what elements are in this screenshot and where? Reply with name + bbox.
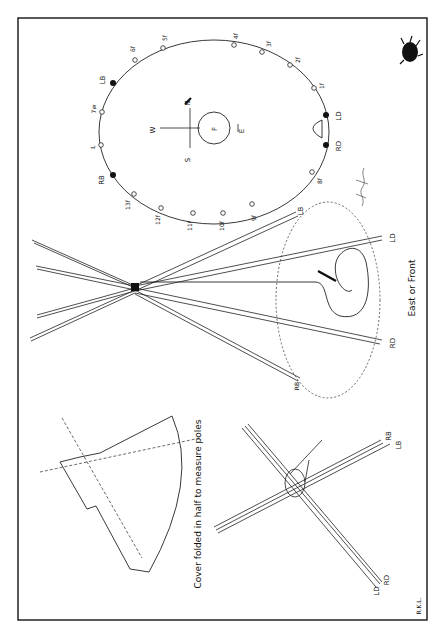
doorway bbox=[313, 120, 322, 138]
pole-marker-4f bbox=[232, 43, 237, 48]
pole-marker-rd bbox=[323, 142, 329, 148]
tripod-label-ld: LD bbox=[389, 233, 397, 242]
buffalo-icon bbox=[400, 36, 423, 64]
pole-marker-12f bbox=[159, 206, 164, 211]
tie-label-lb: LB bbox=[395, 440, 403, 449]
pole-marker-10f bbox=[221, 211, 226, 216]
fire-label: F bbox=[211, 127, 219, 131]
plan-label-rb: RB bbox=[98, 175, 106, 185]
pole-marker-9f bbox=[250, 202, 255, 207]
pole-marker-7w bbox=[100, 110, 105, 115]
plan-label-9f: 9f bbox=[250, 214, 257, 221]
plan-label-3f: 3f bbox=[265, 40, 272, 47]
stake-icon bbox=[318, 271, 336, 281]
pole-marker-1f bbox=[312, 86, 317, 91]
tripod-label-rd: RD bbox=[389, 338, 397, 348]
tie-label-rd: RD bbox=[383, 575, 391, 585]
pole-marker-3f bbox=[260, 50, 265, 55]
plan-label-12f: 12f bbox=[154, 214, 161, 225]
pole-marker-6f bbox=[133, 58, 138, 63]
compass-east: E bbox=[238, 129, 246, 133]
signature bbox=[356, 168, 368, 206]
pole-marker-11f bbox=[191, 211, 196, 216]
plan-label-lb: LB bbox=[99, 75, 107, 84]
plan-label-11f: 11f bbox=[186, 220, 193, 231]
tipi-diagram: F N S W E LD RD LB RB bbox=[0, 0, 444, 627]
compass-west: W bbox=[149, 126, 157, 133]
tripod-label-rb: RB bbox=[293, 382, 300, 390]
plan-label-l: L bbox=[89, 145, 96, 149]
plan-label-6f: 6f bbox=[129, 45, 136, 52]
tripod-label-lb: LB bbox=[297, 206, 305, 215]
pole-marker-rb bbox=[110, 172, 116, 178]
pole-marker-lb bbox=[110, 80, 116, 86]
plan-label-1f: 1f bbox=[318, 82, 325, 89]
credit-initials: R.K.L. bbox=[415, 597, 422, 614]
plan-label-7w: 7w bbox=[90, 105, 97, 114]
pole-marker-ld bbox=[323, 112, 329, 118]
plan-label-13f: 13f bbox=[124, 199, 131, 210]
tie-rope bbox=[290, 440, 322, 482]
ground-ellipse bbox=[276, 202, 380, 398]
plan-label-rd: RD bbox=[335, 141, 343, 151]
cover-diagram: Cover folded in half to measure poles bbox=[40, 416, 203, 588]
plan-label-ld: LD bbox=[335, 111, 343, 120]
plan-label-8f: 8f bbox=[316, 177, 323, 184]
pole-marker-5f bbox=[161, 46, 166, 51]
cover-center-line bbox=[62, 418, 142, 558]
plan-label-5f: 5f bbox=[161, 34, 168, 41]
pole-marker-2f bbox=[288, 63, 293, 68]
plan-label-2f: 2f bbox=[294, 56, 301, 63]
plan-label-4f: 4f bbox=[232, 32, 239, 39]
compass-south: S bbox=[184, 157, 192, 162]
cover-outline bbox=[60, 416, 182, 572]
tie-label-rb: RB bbox=[385, 431, 393, 441]
plan-label-10f: 10f bbox=[218, 220, 225, 231]
tie-diagram: RB LB RD LD bbox=[214, 424, 403, 596]
pole-marker-8f bbox=[310, 170, 315, 175]
cover-caption: Cover folded in half to measure poles bbox=[193, 419, 203, 588]
pole-marker-l bbox=[99, 143, 104, 148]
east-front-caption: East or Front bbox=[407, 259, 417, 317]
tie-label-ld: LD bbox=[373, 586, 381, 595]
floor-plan: F N S W E LD RD LB RB bbox=[89, 32, 343, 231]
pole-marker-13f bbox=[132, 192, 137, 197]
pole-lashing bbox=[131, 283, 139, 291]
